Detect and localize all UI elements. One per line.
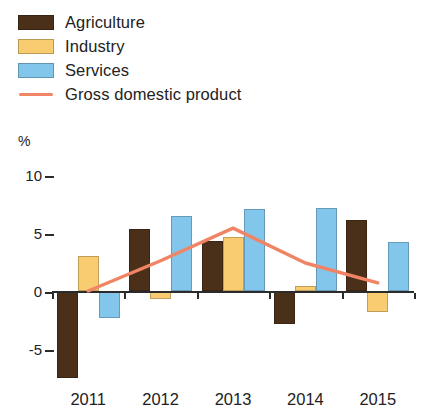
bar-services-2014 xyxy=(316,208,337,291)
bar-industry-2015 xyxy=(367,291,388,312)
y-axis-tick-mark xyxy=(45,176,54,178)
bar-agriculture-2015 xyxy=(346,220,367,291)
bar-agriculture-2013 xyxy=(202,241,223,291)
x-axis-tick-mark xyxy=(269,293,271,299)
bar-agriculture-2014 xyxy=(274,291,295,324)
y-axis-tick-label: 0 xyxy=(8,284,42,299)
bar-agriculture-2012 xyxy=(129,229,150,291)
bar-services-2015 xyxy=(388,242,409,291)
x-axis-tick-mark xyxy=(124,293,126,299)
y-axis-tick-mark xyxy=(45,234,54,236)
x-axis-tick-mark xyxy=(414,293,416,299)
x-axis-tick-label-2015: 2015 xyxy=(343,391,413,408)
x-axis-tick-mark xyxy=(197,293,199,299)
bar-services-2013 xyxy=(244,209,265,291)
y-axis-tick-label: -5 xyxy=(8,342,42,357)
bar-services-2011 xyxy=(99,291,120,318)
bar-services-2012 xyxy=(171,216,192,291)
x-axis-tick-label-2014: 2014 xyxy=(270,391,340,408)
bar-industry-2011 xyxy=(78,256,99,291)
y-axis-tick-mark xyxy=(45,350,54,352)
x-axis-tick-mark xyxy=(342,293,344,299)
bar-agriculture-2011 xyxy=(57,291,78,378)
x-axis-tick-label-2013: 2013 xyxy=(198,391,268,408)
x-axis-tick-label-2012: 2012 xyxy=(126,391,196,408)
zero-baseline-axis xyxy=(52,291,414,293)
y-axis-tick-label: 5 xyxy=(8,226,42,241)
bar-industry-2013 xyxy=(223,237,244,291)
x-axis-tick-label-2011: 2011 xyxy=(53,391,123,408)
x-axis-tick-mark xyxy=(52,293,54,299)
chart-plot-area: 1050-5 20112012201320142015 xyxy=(0,0,424,413)
y-axis-tick-label: 10 xyxy=(8,168,42,183)
